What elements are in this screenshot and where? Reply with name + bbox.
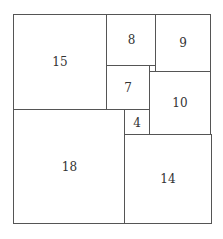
square-10: 10 (149, 71, 211, 135)
squared-rectangle-diagram: 15 8 9 7 1 10 18 4 14 (0, 0, 223, 239)
square-label: 18 (62, 160, 77, 174)
square-label: 4 (133, 116, 141, 130)
square-9: 9 (155, 14, 211, 72)
square-15: 15 (13, 14, 107, 110)
square-label: 8 (128, 33, 136, 47)
square-label: 7 (124, 81, 132, 95)
square-4: 4 (124, 109, 150, 136)
square-7: 7 (106, 65, 150, 111)
square-label: 14 (160, 172, 175, 186)
square-label: 10 (172, 96, 187, 110)
square-8: 8 (106, 14, 157, 66)
square-label: 9 (179, 36, 187, 50)
square-14: 14 (124, 134, 212, 224)
square-18: 18 (13, 109, 126, 224)
square-label: 15 (52, 55, 67, 69)
